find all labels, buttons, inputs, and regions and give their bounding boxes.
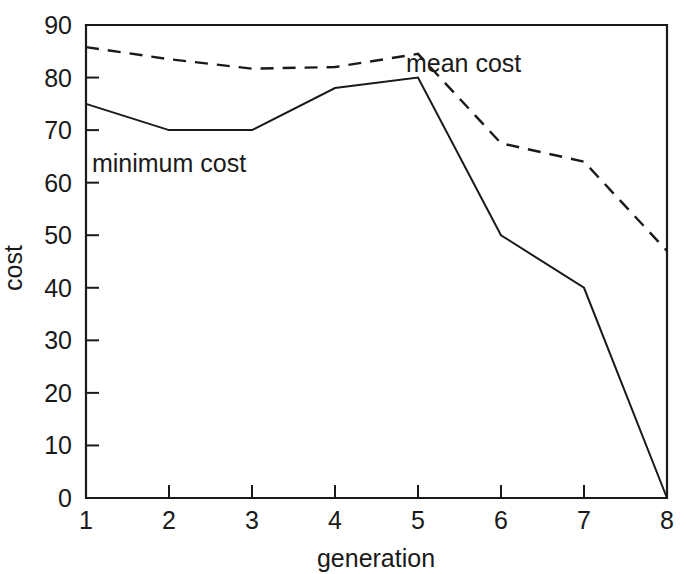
y-tick-label: 10 [44, 431, 72, 459]
y-axis-tick-labels: 0102030405060708090 [44, 11, 72, 512]
x-tick-label: 1 [79, 506, 93, 534]
annotation-minimum-cost: minimum cost [92, 149, 246, 177]
y-tick-label: 80 [44, 64, 72, 92]
x-tick-label: 2 [162, 506, 176, 534]
y-tick-label: 40 [44, 274, 72, 302]
y-tick-label: 30 [44, 326, 72, 354]
x-tick-label: 7 [577, 506, 591, 534]
x-axis-title: generation [317, 544, 435, 572]
plot-area: 0102030405060708090 12345678 minimum cos… [0, 0, 686, 574]
y-tick-label: 20 [44, 379, 72, 407]
y-tick-label: 0 [58, 484, 72, 512]
y-axis-title: cost [0, 245, 27, 291]
x-tick-label: 5 [411, 506, 425, 534]
y-tick-label: 50 [44, 221, 72, 249]
axis-frame [86, 25, 667, 498]
y-tick-label: 90 [44, 11, 72, 39]
x-tick-label: 6 [494, 506, 508, 534]
data-series-group [86, 47, 667, 498]
x-axis-ticks [169, 485, 584, 498]
plot-frame-border [86, 25, 667, 498]
x-tick-label: 4 [328, 506, 342, 534]
y-tick-label: 60 [44, 169, 72, 197]
x-tick-label: 3 [245, 506, 259, 534]
annotation-mean-cost: mean cost [406, 49, 521, 77]
y-tick-label: 70 [44, 116, 72, 144]
series-line-minimum-cost [86, 78, 667, 498]
cost-vs-generation-chart: 0102030405060708090 12345678 minimum cos… [0, 0, 686, 574]
x-tick-label: 8 [660, 506, 674, 534]
y-axis-ticks [86, 25, 99, 498]
x-axis-tick-labels: 12345678 [79, 506, 674, 534]
